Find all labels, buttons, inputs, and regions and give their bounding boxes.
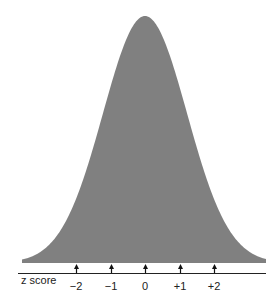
normal-distribution-curve — [22, 16, 266, 263]
bell-curve-chart — [0, 0, 280, 306]
bell-curve-figure: z score −2 −1 0 +1 +2 — [0, 0, 280, 306]
tick-label-plus-1: +1 — [168, 280, 192, 292]
tick-arrows — [74, 264, 217, 273]
tick-label-plus-2: +2 — [202, 280, 226, 292]
tick-label-minus-2: −2 — [64, 280, 88, 292]
z-score-axis-label: z score — [21, 274, 56, 286]
tick-label-zero: 0 — [133, 280, 157, 292]
tick-label-minus-1: −1 — [99, 280, 123, 292]
